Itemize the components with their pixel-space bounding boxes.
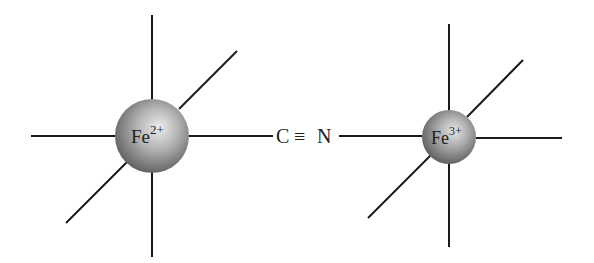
fe3-bond-upper-right (467, 60, 523, 117)
fe3-bond-lower-left (368, 152, 434, 218)
nitrogen-atom-label: N (317, 125, 331, 147)
cyanide-bridge: C ≡ N (276, 125, 422, 147)
iron-cyanide-bridge-diagram: Fe2+ C ≡ N Fe3+ (0, 0, 594, 263)
fe2-center: Fe2+ (31, 15, 273, 257)
carbon-atom-label: C (276, 125, 289, 147)
fe2-bond-lower-left (66, 156, 133, 223)
fe2-bond-upper-right (179, 51, 237, 109)
triple-bond-symbol: ≡ (294, 125, 305, 147)
